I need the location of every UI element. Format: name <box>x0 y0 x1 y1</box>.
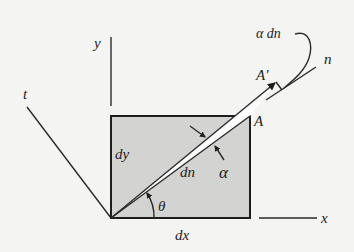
point-a-prime-label: A′ <box>255 67 269 83</box>
n-axis-label: n <box>324 51 332 67</box>
t-axis-line <box>27 107 111 218</box>
y-axis-label: y <box>92 35 101 51</box>
t-axis-label: t <box>23 86 28 102</box>
point-a-label: A <box>253 113 264 129</box>
x-axis-label: x <box>320 210 328 226</box>
a-prime-tick <box>276 82 282 90</box>
strain-element-diagram: y t x n α dn A′ A α dn dy dx θ <box>0 0 354 252</box>
theta-label: θ <box>158 198 166 214</box>
dy-label: dy <box>115 146 130 162</box>
alpha-label: α <box>219 163 229 182</box>
dx-label: dx <box>175 227 190 243</box>
dn-label: dn <box>180 164 195 180</box>
alpha-dn-label: α dn <box>256 26 281 41</box>
